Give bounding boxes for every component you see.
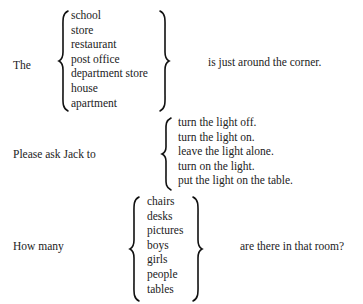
option-item: post office bbox=[71, 52, 148, 67]
option-item: turn the light on. bbox=[178, 130, 293, 145]
option-item: girls bbox=[147, 252, 183, 267]
sentence-lead: Please ask Jack to bbox=[13, 147, 96, 161]
left-brace-icon bbox=[129, 196, 141, 302]
option-item: pictures bbox=[147, 223, 183, 238]
sentence-lead: The bbox=[13, 58, 31, 72]
left-brace-icon bbox=[161, 117, 173, 191]
option-item: house bbox=[71, 81, 148, 96]
option-item: boys bbox=[147, 238, 183, 253]
option-item: department store bbox=[71, 66, 148, 81]
option-item: store bbox=[71, 23, 148, 38]
option-item: restaurant bbox=[71, 37, 148, 52]
option-list: chairs desks pictures boys girls people … bbox=[147, 194, 183, 296]
sentence-tail: is just around the corner. bbox=[208, 55, 321, 69]
option-item: tables bbox=[147, 282, 183, 297]
option-item: apartment bbox=[71, 96, 148, 111]
option-item: school bbox=[71, 8, 148, 23]
option-item: put the light on the table. bbox=[178, 173, 293, 188]
right-brace-icon bbox=[158, 10, 170, 112]
option-list: turn the light off. turn the light on. l… bbox=[178, 115, 293, 188]
option-item: people bbox=[147, 267, 183, 282]
option-item: turn the light off. bbox=[178, 115, 293, 130]
option-item: desks bbox=[147, 209, 183, 224]
option-item: leave the light alone. bbox=[178, 144, 293, 159]
left-brace-icon bbox=[58, 10, 70, 112]
option-item: turn on the light. bbox=[178, 159, 293, 174]
sentence-tail: are there in that room? bbox=[240, 239, 344, 253]
sentence-lead: How many bbox=[13, 239, 64, 253]
right-brace-icon bbox=[191, 196, 203, 302]
option-list: school store restaurant post office depa… bbox=[71, 8, 148, 110]
option-item: chairs bbox=[147, 194, 183, 209]
